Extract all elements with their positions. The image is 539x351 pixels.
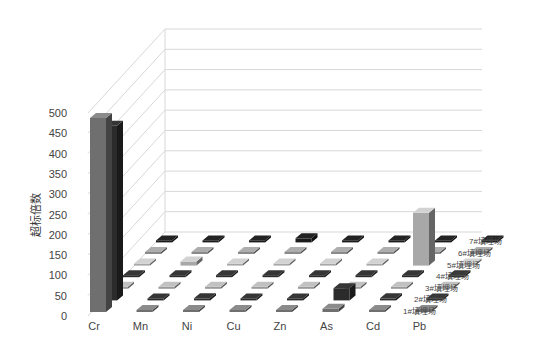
bar: [230, 305, 252, 312]
depth-label: 3#填埋场: [425, 283, 458, 293]
bar: [334, 283, 356, 300]
bar: [203, 235, 225, 242]
bar: [391, 282, 413, 289]
depth-label: 2#填埋场: [414, 294, 447, 304]
bar: [159, 282, 181, 289]
bar: [252, 282, 274, 289]
y-tick-label: 50: [55, 290, 67, 302]
bar: [90, 113, 112, 312]
bar: [241, 293, 263, 300]
y-tick-label: 300: [49, 188, 67, 200]
gridline: [88, 49, 482, 133]
y-tick-label: 200: [49, 229, 67, 241]
gridline: [88, 70, 482, 154]
x-axis: CrMnNiCuZnAsCdPb: [88, 320, 426, 332]
bar: [216, 270, 238, 277]
gridline: [88, 29, 482, 113]
bar: [342, 235, 364, 242]
bar: [183, 305, 205, 312]
bar: [238, 247, 260, 254]
bar: [320, 259, 342, 266]
y-tick-label: 450: [49, 127, 67, 139]
depth-label: 4#填埋场: [436, 271, 469, 281]
bar: [356, 270, 378, 277]
depth-label: 1#填埋场: [403, 306, 436, 316]
x-tick-label: Cu: [226, 320, 240, 332]
bar: [274, 259, 296, 266]
bar: [331, 247, 353, 254]
gridline: [88, 110, 482, 194]
x-tick-label: As: [320, 320, 333, 332]
depth-label: 7#填埋场: [469, 236, 502, 246]
x-tick-label: Zn: [274, 320, 287, 332]
bar: [123, 270, 145, 277]
bar: [194, 293, 216, 300]
bar: [134, 259, 156, 266]
bar: [378, 247, 400, 254]
bar: [205, 282, 227, 289]
y-tick-label: 100: [49, 269, 67, 281]
bar: [148, 293, 170, 300]
bar: [380, 293, 402, 300]
bar: [369, 305, 391, 312]
depth-label: 5#填埋场: [447, 260, 480, 270]
x-tick-label: Mn: [133, 320, 148, 332]
bar: [227, 259, 249, 266]
3d-bar-chart: 050100150200250300350400450500 超标倍数 CrMn…: [0, 0, 539, 351]
bar: [285, 247, 307, 254]
bar: [309, 270, 331, 277]
bar: [145, 247, 167, 254]
y-axis-label: 超标倍数: [29, 193, 42, 237]
gridline: [88, 90, 482, 174]
bar: [413, 208, 435, 266]
y-tick-label: 0: [61, 310, 67, 322]
x-tick-label: Cd: [366, 320, 380, 332]
bar: [298, 282, 320, 289]
bar: [389, 235, 411, 242]
bar: [276, 305, 298, 312]
x-tick-label: Ni: [182, 320, 192, 332]
bar: [137, 305, 159, 312]
bar: [296, 233, 318, 242]
depth-label: 6#填埋场: [458, 248, 491, 258]
bar: [323, 304, 345, 312]
y-tick-label: 400: [49, 148, 67, 160]
x-tick-label: Cr: [88, 320, 100, 332]
y-tick-label: 150: [49, 249, 67, 261]
bar: [287, 293, 309, 300]
bar: [402, 270, 424, 277]
bar: [156, 235, 178, 242]
y-tick-label: 250: [49, 209, 67, 221]
y-tick-label: 500: [49, 107, 67, 119]
bar: [263, 270, 285, 277]
y-tick-label: 350: [49, 168, 67, 180]
bar: [435, 235, 457, 242]
x-tick-label: Pb: [413, 320, 426, 332]
bar: [170, 270, 192, 277]
bar: [181, 257, 203, 266]
y-axis: 050100150200250300350400450500: [49, 107, 67, 322]
bar: [192, 247, 214, 254]
gridline: [88, 131, 482, 215]
bar: [249, 235, 271, 242]
bar: [367, 259, 389, 266]
bars: [90, 113, 504, 312]
